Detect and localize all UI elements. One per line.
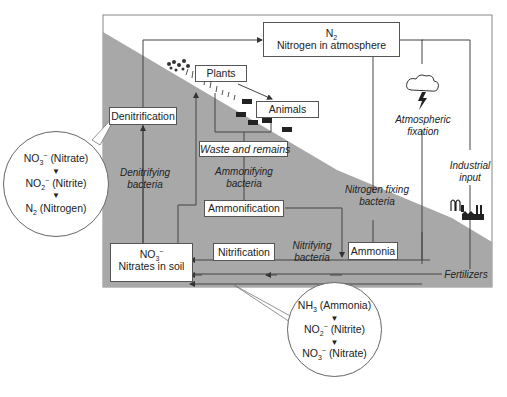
label-line: Ammonifying [212,166,276,178]
superscript: − [43,152,47,159]
formula: NO [24,152,40,164]
superscript: − [324,323,328,330]
label-denitrifying-bacteria: Denitrifying bacteria [114,167,176,191]
label-line: bacteria [340,196,414,208]
subscript: 3 [39,159,43,166]
name: (Ammonia) [320,299,371,311]
n2-label: Nitrogen in atmosphere [264,39,399,51]
label-line: input [445,172,495,184]
node-animals: Animals [256,101,319,118]
node-nitrates-in-soil: NO3− Nitrates in soil [110,243,193,282]
label-fertilizers: Fertilizers [442,269,490,281]
name: (Nitrate) [329,347,367,359]
node-nitrification: Nitrification [213,243,275,261]
nitrification-callout-pointer [234,285,294,322]
label-line: Denitrifying [114,167,176,179]
node-denitrification: Denitrification [109,107,177,125]
node-ammonification: Ammonification [204,200,284,217]
formula: NO [25,177,41,189]
name: (Nitrogen) [40,202,87,214]
nitrification-steps-callout: NH3 (Ammonia) ▼ NO2− (Nitrite) ▼ NO3− (N… [287,282,382,377]
step-nitrogen: N2 (Nitrogen) [4,202,108,214]
name: (Nitrite) [331,323,365,335]
step-ammonia: NH3 (Ammonia) [288,299,381,311]
step-nitrite: NO2− (Nitrite) [4,177,108,189]
nitrates-superscript: − [159,248,163,255]
nitrates-label: Nitrates in soil [111,260,192,272]
step-nitrite: NO2− (Nitrite) [288,323,381,335]
label-line: bacteria [114,179,176,191]
name: (Nitrite) [52,177,86,189]
step-nitrate: NO3− (Nitrate) [288,347,381,359]
label-line: bacteria [288,252,336,264]
subscript: 2 [320,330,324,337]
nitrates-formula: NO [140,248,156,260]
label-industrial-input: Industrial input [445,160,495,184]
label-nitrogen-fixing-bacteria: Nitrogen fixing bacteria [340,184,414,208]
node-plants: Plants [195,65,247,82]
label-line: Industrial [445,160,495,172]
down-arrow-icon: ▼ [288,339,381,347]
name: (Nitrate) [50,152,88,164]
label-line: fixation [390,126,456,138]
denitrification-steps-callout: NO3− (Nitrate) ▼ NO2− (Nitrite) ▼ N2 (Ni… [3,131,109,237]
label-line: Atmospheric [390,114,456,126]
superscript: − [45,177,49,184]
node-waste-and-remains: Waste and remains [199,141,288,157]
down-arrow-icon: ▼ [288,315,381,323]
label-ammonifying-bacteria: Ammonifying bacteria [212,166,276,190]
formula: N [25,202,33,214]
node-ammonia: Ammonia [348,242,398,260]
subscript: 3 [318,354,322,361]
down-arrow-icon: ▼ [4,168,108,176]
label-nitrifying-bacteria: Nitrifying bacteria [288,240,336,264]
node-nitrogen-atmosphere: N2 Nitrogen in atmosphere [263,22,400,57]
subscript: 3 [313,306,317,313]
down-arrow-icon: ▼ [4,192,108,200]
label-line: Nitrifying [288,240,336,252]
label-line: bacteria [212,178,276,190]
superscript: − [322,347,326,354]
formula: NH [298,299,313,311]
formula: NO [304,323,320,335]
subscript: 2 [33,209,37,216]
subscript: 2 [41,184,45,191]
formula: NO [302,347,318,359]
step-nitrate: NO3− (Nitrate) [4,152,108,164]
label-line: Nitrogen fixing [340,184,414,196]
label-atmospheric-fixation: Atmospheric fixation [390,114,456,138]
